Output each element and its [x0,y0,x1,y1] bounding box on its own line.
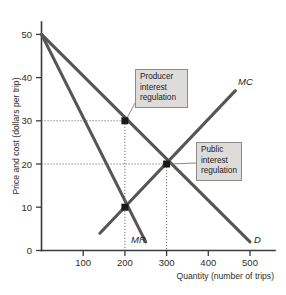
page-edge-artifact [0,289,286,295]
x-tick-label-500: 500 [242,257,258,268]
y-tick-label-20: 20 [21,159,32,170]
marginal-revenue-curve [42,34,146,242]
producer-callout-line-1: Producer [140,72,183,83]
y-tick-label-10: 10 [21,202,32,213]
producer-interest-point-marker [121,117,128,124]
y-axis-title: Price and cost (dollars per trip) [11,77,21,194]
chart-plot-area: 0 10 20 30 40 50 100 200 300 400 500 Qua… [0,0,286,295]
mr-curve-label: MR [131,234,146,245]
producer-callout-line-3: regulation [140,93,183,104]
public-interest-point-marker [163,161,170,168]
d-curve-label: D [254,234,261,245]
producer-callout-line-2: interest [140,83,183,94]
y-tick-label-0: 0 [27,245,32,256]
public-callout-line-1: Public [201,145,237,156]
y-tick-label-40: 40 [21,72,32,83]
x-tick-label-100: 100 [75,257,91,268]
x-axis-title: Quantity (number of trips) [177,271,275,281]
public-interest-regulation-callout: Public interest regulation [196,142,242,181]
x-tick-label-400: 400 [200,257,216,268]
public-callout-line-3: regulation [201,166,237,177]
x-tick-label-300: 300 [159,257,175,268]
public-callout-line-2: interest [201,156,237,167]
mr-equals-mc-point-marker [121,204,128,211]
y-tick-label-50: 50 [21,29,32,40]
y-tick-label-30: 30 [21,115,32,126]
demand-curve [42,34,251,242]
economics-chart-figure: 0 10 20 30 40 50 100 200 300 400 500 Qua… [0,0,286,295]
producer-interest-regulation-callout: Producer interest regulation [135,69,188,108]
producer-callout-leader [127,103,136,119]
x-tick-label-200: 200 [117,257,133,268]
mc-curve-label: MC [238,76,253,87]
